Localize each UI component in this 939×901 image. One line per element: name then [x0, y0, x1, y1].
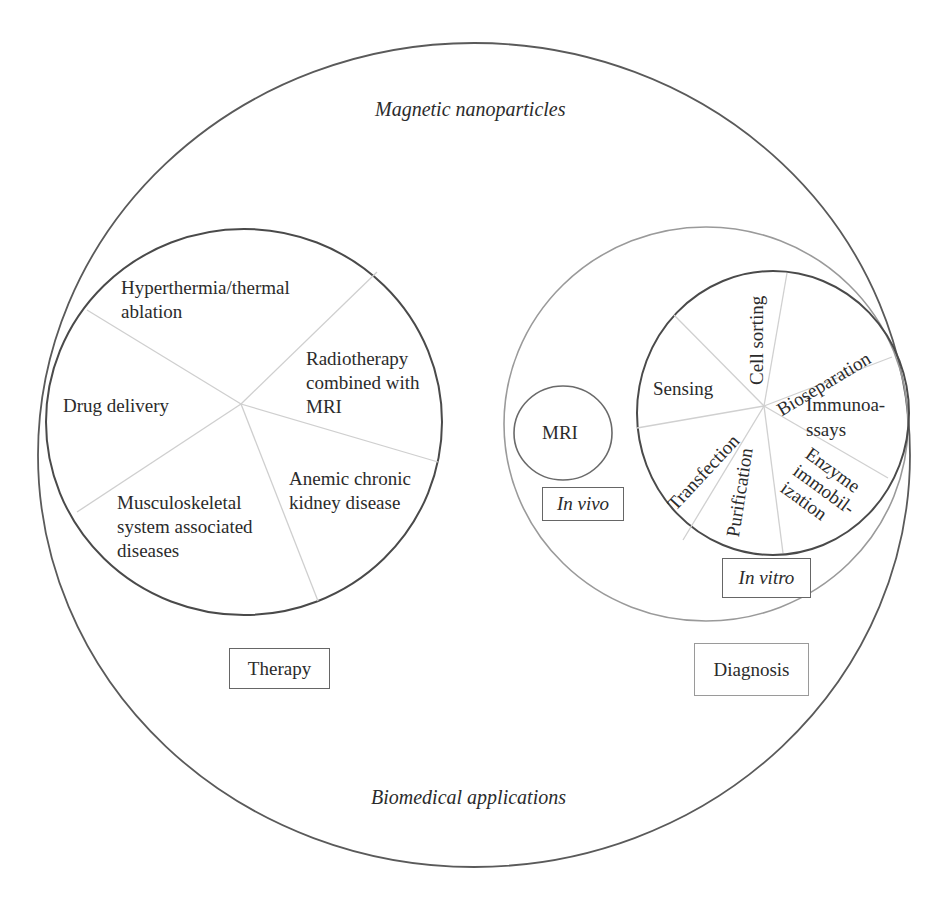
- mri-label: MRI: [542, 421, 578, 445]
- diagram-canvas: [0, 0, 939, 901]
- therapy-segment-hyperthermia: Hyperthermia/thermal ablation: [121, 276, 290, 324]
- therapy-segment-drug-delivery: Drug delivery: [63, 394, 169, 418]
- therapy-segment-anemic-ckd: Anemic chronic kidney disease: [289, 467, 411, 515]
- in-vitro-segment-immunoassays: Immunoa- ssays: [806, 392, 885, 442]
- in-vitro-segment-sensing: Sensing: [653, 377, 713, 401]
- in-vivo-label-box: In vivo: [542, 487, 624, 521]
- in-vitro-label-box: In vitro: [722, 558, 811, 598]
- in-vitro-segment-cell-sorting: Cell sorting: [746, 296, 768, 385]
- diagnosis-label-box: Diagnosis: [694, 643, 809, 696]
- therapy-segment-radiotherapy: Radiotherapy combined with MRI: [306, 347, 419, 419]
- outer-circle-magnetic-nanoparticles: [38, 43, 910, 867]
- therapy-label-box: Therapy: [229, 648, 330, 689]
- biomedical-applications-title: Biomedical applications: [371, 785, 566, 809]
- magnetic-nanoparticles-title: Magnetic nanoparticles: [375, 97, 566, 121]
- therapy-segment-musculoskeletal: Musculoskeletal system associated diseas…: [117, 491, 253, 563]
